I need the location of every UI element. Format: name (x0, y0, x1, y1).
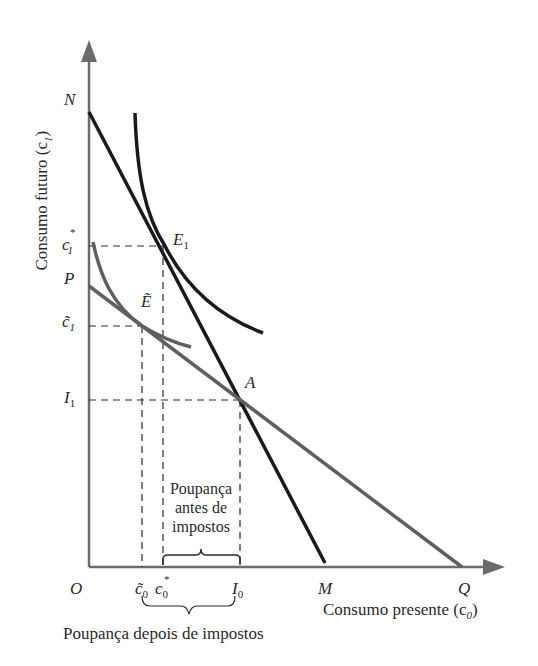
x-axis-label: Consumo presente (c0) (323, 601, 478, 621)
label-I0: I0 (232, 580, 243, 600)
indifference-curve-E1 (135, 113, 263, 333)
label-c0-tilde: c̃0 (135, 580, 148, 600)
label-N: N (64, 91, 75, 108)
annotation-savings-before-tax: Poupança antes de impostos (158, 479, 244, 536)
annotation-line-1: Poupança (158, 479, 244, 498)
label-origin-O: O (70, 580, 82, 597)
brace-before-tax (163, 549, 240, 565)
y-axis-arrow-icon (81, 40, 97, 62)
x-axis-arrow-icon (483, 559, 505, 575)
diagram-canvas (0, 0, 538, 666)
label-c0-star: c0* (155, 580, 168, 600)
y-axis-label: Consumo futuro (c​1) (32, 111, 53, 291)
label-c1-star: c1* (62, 236, 75, 256)
annotation-line-2: antes de (158, 498, 244, 517)
label-P: P (64, 270, 74, 287)
label-M: M (318, 580, 332, 597)
label-E1: E1 (173, 231, 189, 251)
label-A: A (245, 374, 255, 391)
annotation-line-3: impostos (158, 517, 244, 536)
label-c1-tilde: c̃1 (62, 313, 75, 333)
annotation-savings-after-tax: Poupança depois de impostos (63, 625, 264, 642)
label-E-tilde: Ẽ (141, 293, 151, 310)
label-Q: Q (458, 580, 470, 597)
label-I1: I1 (64, 389, 75, 409)
